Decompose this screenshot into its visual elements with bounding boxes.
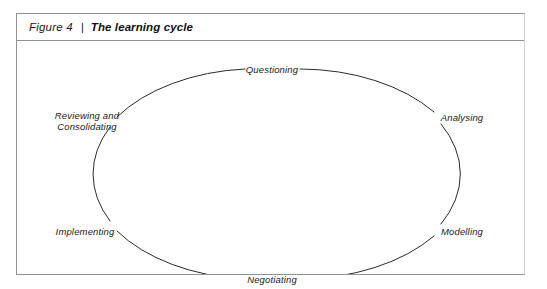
figure-title: The learning cycle (91, 21, 193, 33)
node-label-reviewing-consolidating: Reviewing and Consolidating (46, 110, 128, 132)
figure-number: Figure 4 (29, 21, 73, 33)
node-label-negotiating: Negotiating (247, 274, 297, 285)
node-label-reviewing-line2: Consolidating (57, 121, 117, 132)
cycle-ellipse-graphic (17, 41, 524, 274)
figure-frame: Figure 4 | The learning cycle Questionin… (16, 13, 525, 275)
node-label-reviewing-line1: Reviewing and (55, 110, 119, 121)
arc-analysing-to-modelling (441, 124, 460, 224)
node-label-questioning: Questioning (246, 64, 298, 75)
caption-separator: | (81, 21, 84, 33)
arc-questioning-to-analysing (300, 69, 434, 112)
arc-reviewing-to-questioning (117, 69, 245, 117)
node-label-implementing: Implementing (56, 226, 115, 237)
figure-caption: Figure 4 | The learning cycle (17, 14, 524, 41)
node-label-analysing: Analysing (441, 112, 484, 123)
node-label-modelling: Modelling (441, 226, 483, 237)
arc-negotiating-to-implementing (117, 231, 245, 274)
arc-implementing-to-reviewing (93, 127, 110, 221)
arc-modelling-to-negotiating (300, 236, 434, 274)
learning-cycle-diagram: Questioning Analysing Modelling Negotiat… (17, 41, 524, 274)
